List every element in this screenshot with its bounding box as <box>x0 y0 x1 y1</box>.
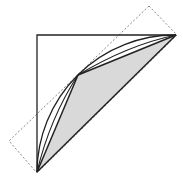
hypotenuse <box>37 35 176 172</box>
geometry-diagram <box>0 0 183 181</box>
